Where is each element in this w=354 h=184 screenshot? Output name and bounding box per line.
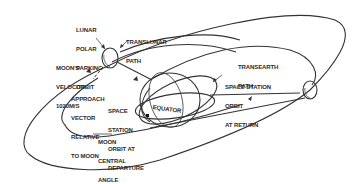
departure-marker [146, 114, 149, 117]
label-moon-central-angle: MOON CENTRAL ANGLE -210° [98, 126, 126, 184]
label-translunar-path: TRANSLUNAR PATH [126, 26, 167, 71]
label-space-station-return: SPACE STATION ORBIT AT RETURN [225, 71, 271, 135]
trajectory-diagram [0, 0, 354, 184]
label-equator: EQUATOR [151, 91, 183, 120]
arrowhead-icon [133, 76, 138, 81]
